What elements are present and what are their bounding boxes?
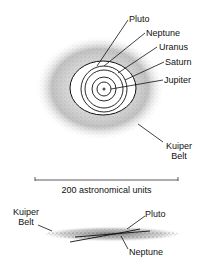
label-neptune-side: Neptune <box>129 247 163 257</box>
scale-bar-label: 200 astronomical units <box>35 185 178 195</box>
label-kuiper-belt-top: Kuiper Belt <box>163 141 195 161</box>
label-neptune-top: Neptune <box>146 28 180 38</box>
label-uranus: Uranus <box>159 42 188 52</box>
label-pluto-top: Pluto <box>129 14 150 24</box>
label-kuiper-belt-side: Kuiper Belt <box>10 207 42 227</box>
label-pluto-side: Pluto <box>145 209 166 219</box>
label-jupiter: Jupiter <box>164 75 191 85</box>
scale-bar <box>35 177 178 181</box>
label-kuiper-line2: Belt <box>163 151 195 161</box>
label-kuiper-side-line2: Belt <box>10 217 42 227</box>
label-kuiper-line1: Kuiper <box>163 141 195 151</box>
label-saturn: Saturn <box>165 57 192 67</box>
label-kuiper-side-line1: Kuiper <box>10 207 42 217</box>
sun <box>103 88 106 91</box>
